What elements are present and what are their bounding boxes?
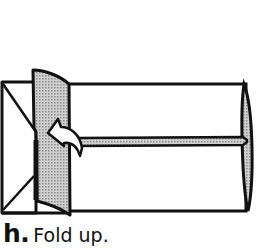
center-crease-band xyxy=(78,137,247,146)
step-instruction: Fold up. xyxy=(33,224,108,246)
step-letter: h. xyxy=(3,219,29,248)
step-caption: h.Fold up. xyxy=(3,219,109,248)
fold-diagram xyxy=(0,0,271,249)
left-flap xyxy=(2,82,36,213)
main-panel xyxy=(68,84,246,211)
